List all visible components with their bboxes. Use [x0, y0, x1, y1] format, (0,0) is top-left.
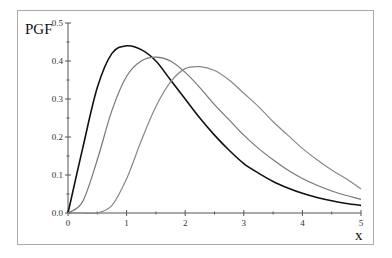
y-tick-label: 0.0	[52, 208, 64, 218]
pgf-chart: 0123450.00.10.20.30.40.5 PGF x	[0, 0, 392, 258]
y-tick-label: 0.2	[52, 132, 63, 142]
y-tick-label: 0.5	[52, 18, 64, 28]
x-tick-label: 4	[300, 218, 305, 228]
x-tick-label: 1	[124, 218, 129, 228]
x-tick-label: 2	[183, 218, 188, 228]
chart-frame	[18, 11, 374, 245]
y-tick-label: 0.1	[52, 170, 63, 180]
x-tick-label: 0	[66, 218, 71, 228]
y-tick-label: 0.3	[52, 94, 64, 104]
y-axis-title: PGF	[25, 21, 53, 37]
x-axis-title: x	[355, 227, 363, 243]
x-tick-label: 3	[242, 218, 247, 228]
y-tick-label: 0.4	[52, 56, 64, 66]
